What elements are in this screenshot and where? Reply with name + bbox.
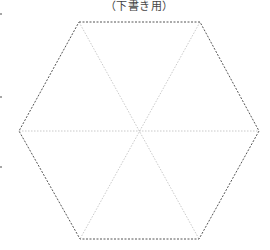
margin-mark [0,166,2,168]
hexagon-diagram [0,0,270,250]
diagonal-2 [80,22,200,239]
margin-mark [0,96,2,98]
margin-mark [0,13,2,15]
diagonal-1 [79,22,199,239]
hexagon-diagonals [19,22,259,239]
